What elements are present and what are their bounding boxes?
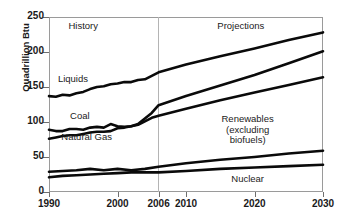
x-tick-mark bbox=[159, 192, 160, 197]
energy-consumption-chart: Quadrillion Btu 050100150200250 19902000… bbox=[0, 0, 337, 220]
annotation-history: History bbox=[38, 20, 128, 31]
annotation-renewables: Renewables(excludingbiofuels) bbox=[205, 114, 291, 146]
x-tick-mark bbox=[118, 192, 119, 197]
y-tick-label: 200 bbox=[14, 45, 44, 56]
y-tick-label: 50 bbox=[14, 150, 44, 161]
plot-area bbox=[49, 17, 323, 192]
annotation-nuclear: Nuclear bbox=[203, 173, 293, 184]
annotation-liquids: Liquids bbox=[28, 73, 118, 84]
annotation-coal: Coal bbox=[35, 110, 125, 121]
x-tick-label: 2010 bbox=[164, 198, 208, 209]
x-tick-label: 1990 bbox=[27, 198, 71, 209]
history-projection-divider bbox=[158, 17, 159, 192]
x-tick-label: 2030 bbox=[301, 198, 337, 209]
annotation-natural-gas: Natural Gas bbox=[42, 131, 132, 142]
x-tick-mark bbox=[255, 192, 256, 197]
annotation-projections: Projections bbox=[196, 20, 286, 31]
x-tick-label: 2020 bbox=[233, 198, 277, 209]
x-tick-mark bbox=[49, 192, 50, 197]
x-tick-label: 2000 bbox=[96, 198, 140, 209]
x-tick-mark bbox=[186, 192, 187, 197]
x-tick-mark bbox=[323, 192, 324, 197]
y-tick-label: 0 bbox=[14, 185, 44, 196]
